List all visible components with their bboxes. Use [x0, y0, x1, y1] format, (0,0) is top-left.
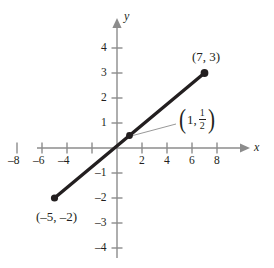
x-tick-label-6: 6 — [189, 155, 195, 167]
open-paren: ( — [179, 108, 186, 131]
midpoint-x-value: 1, — [187, 113, 197, 126]
y-tick-label--4: –4 — [95, 242, 107, 254]
x-tick-label-8: 8 — [214, 155, 220, 167]
x-tick-label--4: –4 — [58, 155, 70, 167]
fraction-numerator: 1 — [199, 108, 206, 118]
point-label-7-3: (7, 3) — [192, 50, 220, 63]
y-tick-label-4: 4 — [101, 42, 107, 54]
fraction-one-half: 1 2 — [199, 108, 206, 131]
x-tick-label-4: 4 — [164, 155, 170, 167]
y-tick-label-2: 2 — [101, 92, 107, 104]
point-endpoint-upper-right — [201, 69, 209, 77]
x-tick-label-2: 2 — [139, 155, 145, 167]
x-axis-arrowhead — [240, 143, 250, 152]
coordinate-plane-figure: y x –8 –6 –4 2 4 6 8 4 3 2 1 –1 –2 –3 –4… — [0, 0, 274, 268]
graph-canvas — [0, 0, 274, 268]
point-label-midpoint: ( 1, 1 2 ) — [178, 108, 216, 131]
y-tick-label-1: 1 — [101, 117, 107, 129]
y-tick-label-3: 3 — [101, 67, 107, 79]
x-tick-label--6: –6 — [33, 155, 45, 167]
y-tick-label--1: –1 — [95, 167, 107, 179]
x-axis-label: x — [254, 141, 259, 153]
y-axis-label: y — [124, 10, 129, 22]
y-tick-label--3: –3 — [95, 217, 107, 229]
y-axis-arrowhead — [112, 18, 121, 28]
point-label--5--2: (–5, –2) — [36, 210, 77, 223]
y-tick-label--2: –2 — [95, 192, 107, 204]
close-paren: ) — [208, 108, 215, 131]
x-tick-label--8: –8 — [8, 155, 20, 167]
point-endpoint-lower-left — [51, 194, 58, 201]
fraction-denominator: 2 — [199, 121, 206, 131]
point-midpoint — [126, 132, 133, 139]
